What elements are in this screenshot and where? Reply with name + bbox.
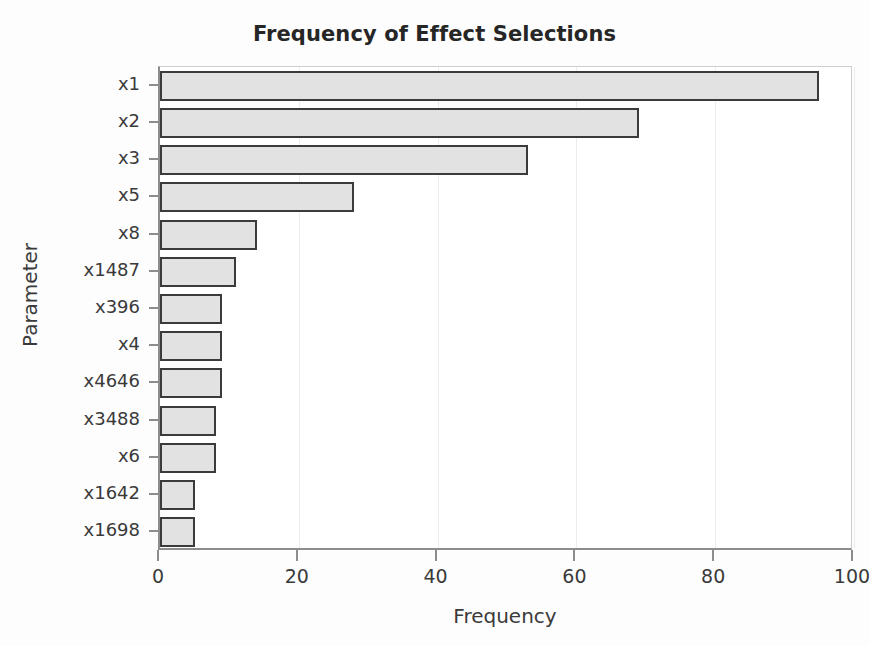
x-axis-tick [712, 550, 714, 561]
y-axis-tick-label-x4646: x4646 [18, 370, 140, 391]
x-axis-tick-label-60: 60 [534, 565, 614, 587]
bar-series [160, 67, 851, 548]
y-axis-tick-label-x6: x6 [18, 445, 140, 466]
bar-x4 [160, 331, 222, 361]
x-axis-tick-label-0: 0 [118, 565, 198, 587]
y-axis-tick-label-x4: x4 [18, 333, 140, 354]
y-axis-tick-label-x1698: x1698 [18, 519, 140, 540]
y-axis-tick-label-x3: x3 [18, 147, 140, 168]
x-axis-tick-label-80: 80 [673, 565, 753, 587]
x-axis-tick [296, 550, 298, 561]
bar-x8 [160, 220, 257, 250]
y-axis-tick-label-x5: x5 [18, 184, 140, 205]
y-axis-tick [149, 233, 158, 235]
bar-row [160, 514, 195, 551]
x-axis-tick [157, 550, 159, 561]
y-axis-tick [149, 344, 158, 346]
plot-area [158, 66, 852, 550]
y-axis-tick [149, 419, 158, 421]
bar-row [160, 365, 222, 402]
y-axis-tick [149, 84, 158, 86]
y-axis-tick-label-x1642: x1642 [18, 482, 140, 503]
y-axis-tick-label-x8: x8 [18, 222, 140, 243]
bar-row [160, 477, 195, 514]
bar-row [160, 253, 236, 290]
bar-x3488 [160, 406, 216, 436]
bar-x1487 [160, 257, 236, 287]
x-axis-tick [435, 550, 437, 561]
bar-x1 [160, 71, 819, 101]
y-axis-tick [149, 270, 158, 272]
y-axis-tick-label-x3488: x3488 [18, 408, 140, 429]
bar-x2 [160, 108, 639, 138]
y-axis-tick-label-x1487: x1487 [18, 259, 140, 280]
gridline [854, 67, 855, 548]
y-axis-tick-label-x2: x2 [18, 110, 140, 131]
y-axis-tick [149, 381, 158, 383]
x-axis-tick-label-20: 20 [257, 565, 337, 587]
y-axis-tick [149, 121, 158, 123]
y-axis-tick [149, 493, 158, 495]
bar-x3 [160, 145, 528, 175]
y-axis-tick [149, 530, 158, 532]
bar-row [160, 179, 354, 216]
bar-row [160, 402, 216, 439]
x-axis-tick-label-100: 100 [812, 565, 874, 587]
bar-row [160, 328, 222, 365]
y-axis-tick [149, 456, 158, 458]
x-axis-tick [851, 550, 853, 561]
bar-x1698 [160, 517, 195, 547]
bar-row [160, 439, 216, 476]
bar-x396 [160, 294, 222, 324]
bar-row [160, 104, 639, 141]
bar-x1642 [160, 480, 195, 510]
y-axis-tick [149, 158, 158, 160]
chart-title: Frequency of Effect Selections [0, 22, 869, 46]
x-axis-tick-label-40: 40 [396, 565, 476, 587]
bar-x4646 [160, 368, 222, 398]
x-axis-tick [573, 550, 575, 561]
bar-row [160, 290, 222, 327]
bar-row [160, 67, 819, 104]
bar-row [160, 141, 528, 178]
bar-x6 [160, 443, 216, 473]
y-axis-tick-label-x396: x396 [18, 296, 140, 317]
bar-x5 [160, 182, 354, 212]
x-axis-title: Frequency [158, 604, 852, 628]
y-axis-tick [149, 195, 158, 197]
bar-row [160, 216, 257, 253]
y-axis-tick-label-x1: x1 [18, 73, 140, 94]
y-axis-tick [149, 307, 158, 309]
